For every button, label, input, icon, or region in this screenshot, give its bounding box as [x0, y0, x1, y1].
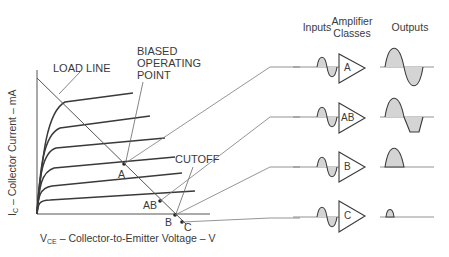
x-axis-label: VCE – Collector-to-Emitter Voltage – V — [40, 232, 216, 245]
biased-label-line2: OPERATING — [137, 57, 201, 69]
diagram-canvas — [0, 0, 449, 257]
classes-header-line1: Amplifier — [330, 16, 374, 27]
load-line — [37, 78, 186, 224]
class-a-label: A — [344, 62, 351, 73]
class-ab-label: AB — [341, 112, 354, 123]
point-ab-label: AB — [143, 200, 157, 211]
biased-label-line1: BIASED — [137, 45, 177, 57]
classes-header-line2: Classes — [330, 28, 374, 39]
amplifier-triangles — [339, 54, 365, 232]
outputs-header: Outputs — [385, 22, 435, 33]
y-axis-label: IC – Collector Current – mA — [6, 90, 19, 216]
point-b-label: B — [165, 217, 172, 228]
load-line-leader — [59, 72, 80, 94]
characteristic-curves — [37, 93, 195, 214]
output-waves — [380, 48, 434, 217]
load-line-label: LOAD LINE — [53, 62, 110, 74]
cutoff-label: CUTOFF — [175, 153, 219, 165]
class-c-label: C — [344, 210, 351, 221]
point-a-label: A — [118, 169, 125, 180]
biased-label-line3: POINT — [137, 69, 171, 81]
class-b-label: B — [344, 161, 351, 172]
input-waves — [293, 57, 339, 227]
